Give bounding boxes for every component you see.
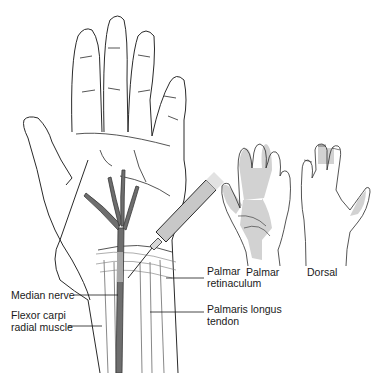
label-inset-palmar: Palmar xyxy=(246,266,279,278)
label-flexor-carpi-radial-muscle: Flexor carpi radial muscle xyxy=(11,309,73,333)
syringe-drawing xyxy=(128,172,224,278)
label-inset-dorsal: Dorsal xyxy=(307,266,337,278)
label-median-nerve: Median nerve xyxy=(11,289,75,301)
inset-palmar-hand xyxy=(222,144,291,266)
median-nerve-drawing xyxy=(84,170,139,373)
nerve-compression-shade xyxy=(117,252,123,282)
inset-dorsal-hand xyxy=(301,144,370,266)
label-palmaris-longus-tendon: Palmaris longus tendon xyxy=(207,303,282,327)
